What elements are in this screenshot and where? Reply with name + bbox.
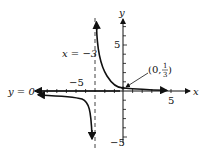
x-tick-label-neg: −5 [69,77,84,88]
curve-left-branch [40,95,92,136]
svg-text:(0,: (0, [148,64,161,75]
x-tick-label-pos: 5 [168,95,174,106]
point-label: (0, 1 3 ) [148,62,172,79]
svg-text:3: 3 [163,71,167,79]
horizontal-asymptote-label: y = 0 [7,86,35,97]
x-axis-label: x [193,86,199,97]
y-tick-label-pos: 5 [114,39,120,50]
curve-right-branch [97,25,166,90]
svg-text:): ) [168,64,172,75]
svg-text:1: 1 [163,62,167,70]
annotation-arrow [126,73,148,87]
vertical-asymptote-label: x = −3 [62,48,97,59]
intercept-point [121,86,124,89]
y-ticks [123,27,127,137]
y-tick-label-neg: −5 [110,137,125,148]
y-axis-label: y [118,7,125,18]
graph: y x −5 5 5 −5 x = −3 y = 0 (0, 1 3 ) [0,0,210,157]
